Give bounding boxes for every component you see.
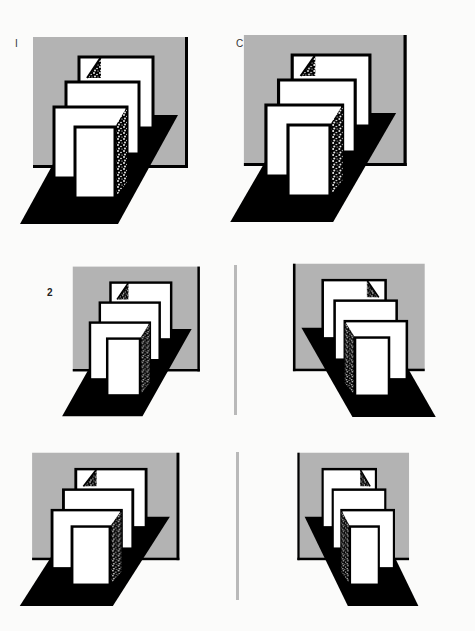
figure-1-left — [20, 37, 188, 224]
figure-2-left — [62, 267, 200, 417]
figure-2-right — [293, 264, 436, 417]
illustration-canvas — [0, 0, 475, 631]
figure-3-right — [297, 453, 418, 606]
figure-3-left — [20, 453, 180, 606]
figure-1-right-c — [230, 35, 406, 222]
